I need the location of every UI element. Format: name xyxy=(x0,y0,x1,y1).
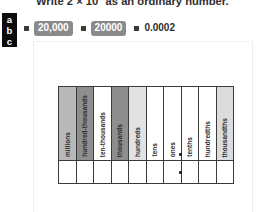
place-value-header-ones: ones xyxy=(164,87,182,161)
place-value-header-label: ones xyxy=(169,142,176,157)
square-bullet-icon xyxy=(134,26,139,31)
place-value-cell-hundred-thousands[interactable] xyxy=(76,161,94,184)
place-value-cell-hundreds[interactable] xyxy=(129,161,147,184)
abc-tab-line-b: b xyxy=(7,25,13,36)
answer-option-a-label: 20,000 xyxy=(34,21,73,36)
place-value-header-tenths: tenths xyxy=(181,87,199,161)
question-prompt-prefix: Write 2 × 10 xyxy=(36,0,98,7)
place-value-header-row: millionshundred-thousandsten-thousandsth… xyxy=(59,87,234,161)
question-prompt: Write 2 × 104 as an ordinary number. xyxy=(36,0,260,8)
answer-options: 20,000 20000 0.0002 xyxy=(24,20,183,36)
place-value-header-label: ten-thousands xyxy=(99,112,106,157)
square-bullet-icon xyxy=(24,26,29,31)
place-value-header-ten-thousands: ten-thousands xyxy=(94,87,112,161)
place-value-header-thousands: thousands xyxy=(111,87,129,161)
place-value-header-hundredths: hundredths xyxy=(199,87,217,161)
answer-option-b[interactable]: 20000 xyxy=(81,21,127,36)
place-value-table: millionshundred-thousandsten-thousandsth… xyxy=(58,86,234,184)
place-value-header-label: hundreds xyxy=(134,127,141,157)
place-value-cell-tens[interactable] xyxy=(146,161,164,184)
place-value-header-label: tenths xyxy=(186,137,193,157)
place-value-header-tens: tens xyxy=(146,87,164,161)
place-value-header-label: hundredths xyxy=(204,121,211,157)
place-value-header-hundred-thousands: hundred-thousands xyxy=(76,87,94,161)
answer-option-c[interactable]: 0.0002 xyxy=(134,22,175,34)
place-value-header-millions: millions xyxy=(59,87,77,161)
place-value-header-hundreds: hundreds xyxy=(129,87,147,161)
answer-option-c-label: 0.0002 xyxy=(144,22,175,34)
place-value-header-label: thousandths xyxy=(221,118,228,157)
place-value-cell-millions[interactable] xyxy=(59,161,77,184)
answer-option-b-label: 20000 xyxy=(91,21,127,36)
question-prompt-suffix: as an ordinary number. xyxy=(102,0,228,7)
place-value-cell-ones[interactable] xyxy=(164,161,182,184)
place-value-header-thousandths: thousandths xyxy=(216,87,234,161)
answer-option-a[interactable]: 20,000 xyxy=(24,21,73,36)
place-value-header-label: tens xyxy=(151,143,158,157)
place-value-cell-hundredths[interactable] xyxy=(199,161,217,184)
place-value-cell-thousandths[interactable] xyxy=(216,161,234,184)
abc-tab-line-a: a xyxy=(7,14,12,25)
place-value-cell-tenths[interactable] xyxy=(181,161,199,184)
place-value-entry-row xyxy=(59,161,234,184)
place-value-header-label: thousands xyxy=(116,124,123,157)
place-value-header-label: millions xyxy=(64,132,71,157)
place-value-cell-ten-thousands[interactable] xyxy=(94,161,112,184)
place-value-header-label: hundred-thousands xyxy=(81,95,88,157)
place-value-cell-thousands[interactable] xyxy=(111,161,129,184)
square-bullet-icon xyxy=(81,26,86,31)
abc-tab: a b c xyxy=(2,13,17,47)
abc-tab-line-c: c xyxy=(7,36,12,47)
